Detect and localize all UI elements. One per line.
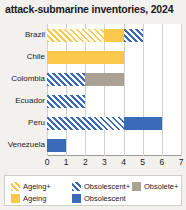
x-tick-label: 6	[159, 157, 164, 167]
legend-item[interactable]: Obsolescent+	[72, 182, 130, 191]
gridline	[162, 24, 163, 156]
bar-group	[47, 73, 181, 86]
legend-item[interactable]: Ageing	[11, 194, 46, 203]
legend-swatch-icon	[11, 194, 20, 203]
gridline	[104, 24, 105, 156]
legend-swatch-icon	[132, 182, 141, 191]
gridline	[143, 24, 144, 156]
bar-segment	[85, 73, 123, 86]
gridline	[66, 24, 67, 156]
bar-segment	[47, 51, 124, 64]
bar-segment	[47, 139, 66, 152]
bar-group	[47, 29, 181, 42]
gridline	[181, 24, 182, 156]
bar-group	[47, 51, 181, 64]
legend-swatch-icon	[72, 182, 81, 191]
legend-item[interactable]: Obsolete+	[132, 182, 178, 191]
bar-segment	[104, 29, 123, 42]
bar-segment	[124, 29, 143, 42]
x-tick-label: 2	[83, 157, 88, 167]
legend-swatch-icon	[11, 182, 20, 191]
gridline	[124, 24, 125, 156]
x-tick-label: 3	[102, 157, 107, 167]
bar-group	[47, 139, 181, 152]
legend-label: Obsolescent	[84, 194, 126, 203]
category-label: Chile	[1, 52, 45, 61]
bar-segment	[124, 117, 162, 130]
legend-swatch-icon	[72, 194, 81, 203]
bar-segment	[47, 29, 104, 42]
x-tick-label: 0	[45, 157, 50, 167]
bar-group	[47, 117, 181, 130]
bar-segment	[47, 73, 85, 86]
page-title: attack-submarine inventories, 2024	[5, 3, 185, 15]
x-tick-label: 4	[121, 157, 126, 167]
legend-label: Obsolete+	[144, 182, 178, 191]
gridline	[85, 24, 86, 156]
legend-label: Ageing+	[23, 182, 51, 191]
legend-label: Obsolescent+	[84, 182, 130, 191]
bar-segment	[47, 117, 124, 130]
bar-segment	[47, 95, 85, 108]
legend-item[interactable]: Obsolescent	[72, 194, 126, 203]
legend-item[interactable]: Ageing+	[11, 182, 51, 191]
category-label: Venezuela	[1, 140, 45, 149]
gridline	[47, 24, 48, 156]
chart-legend: Ageing+Obsolescent+Obsolete+AgeingObsole…	[4, 175, 182, 206]
category-axis: BrazilChileColombiaEcuadorPeruVenezuela	[0, 24, 45, 156]
category-label: Colombia	[1, 74, 45, 83]
category-label: Peru	[1, 118, 45, 127]
legend-label: Ageing	[23, 194, 46, 203]
x-tick-label: 5	[140, 157, 145, 167]
category-label: Ecuador	[1, 96, 45, 105]
x-tick-label: 7	[179, 157, 184, 167]
x-tick-label: 1	[64, 157, 69, 167]
plot-area	[47, 24, 181, 156]
category-label: Brazil	[1, 30, 45, 39]
x-axis-tick-labels: 01234567	[47, 157, 181, 170]
bar-group	[47, 95, 181, 108]
